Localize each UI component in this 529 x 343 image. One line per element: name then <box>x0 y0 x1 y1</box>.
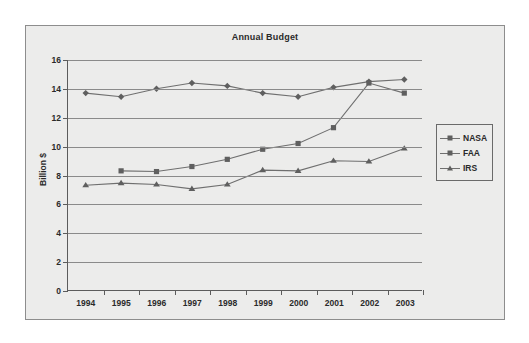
legend-item-irs[interactable]: IRS <box>440 160 488 175</box>
y-tick-label: 2 <box>56 257 61 267</box>
diamond-marker-icon <box>440 132 460 143</box>
gridline <box>68 233 422 234</box>
y-tick-label: 14 <box>52 84 61 94</box>
gridline <box>68 262 422 263</box>
x-tick-label: 1994 <box>76 298 95 308</box>
gridline <box>68 147 422 148</box>
y-tick-label: 12 <box>52 113 61 123</box>
data-point-marker <box>260 90 266 96</box>
legend-item-label: NASA <box>463 133 487 143</box>
data-point-marker <box>189 80 195 86</box>
y-tick-mark <box>63 118 68 119</box>
square-marker-icon <box>440 147 460 158</box>
y-tick-mark <box>63 89 68 90</box>
gridline <box>68 204 422 205</box>
data-point-marker <box>330 157 337 162</box>
x-tick-mark <box>104 290 105 295</box>
data-point-marker <box>153 181 160 186</box>
plot-inner: 0246810121416199419951996199719981999200… <box>68 60 422 290</box>
data-point-marker <box>259 167 266 172</box>
x-tick-mark <box>352 290 353 295</box>
y-tick-label: 0 <box>56 286 61 296</box>
y-axis-label: Billion $ <box>38 153 48 186</box>
y-tick-mark <box>63 204 68 205</box>
chart-title: Annual Budget <box>26 32 504 42</box>
y-tick-label: 8 <box>56 171 61 181</box>
legend-key-marker <box>447 165 453 170</box>
x-tick-label: 1996 <box>147 298 166 308</box>
data-point-marker <box>366 80 371 85</box>
y-tick-mark <box>63 262 68 263</box>
y-tick-mark <box>63 60 68 61</box>
data-point-marker <box>118 94 124 100</box>
chart-frame: Annual Budget Billion $ 0246810121416199… <box>25 25 505 320</box>
data-point-marker <box>225 157 230 162</box>
data-point-marker <box>331 125 336 130</box>
data-point-marker <box>189 164 194 169</box>
gridline <box>68 176 422 177</box>
plot-area: 0246810121416199419951996199719981999200… <box>67 60 422 291</box>
data-point-marker <box>295 94 301 100</box>
gridline <box>68 89 422 90</box>
data-point-marker <box>401 76 407 82</box>
data-point-marker <box>118 180 125 185</box>
y-tick-label: 10 <box>52 142 61 152</box>
legend-item-faa[interactable]: FAA <box>440 145 488 160</box>
legend-item-nasa[interactable]: NASA <box>440 130 488 145</box>
legend-key-marker <box>448 135 453 140</box>
legend-item-label: IRS <box>463 163 477 173</box>
x-tick-mark <box>281 290 282 295</box>
y-tick-label: 6 <box>56 199 61 209</box>
x-tick-mark <box>246 290 247 295</box>
x-tick-mark <box>317 290 318 295</box>
data-point-marker <box>119 168 124 173</box>
x-tick-mark <box>139 290 140 295</box>
y-tick-label: 16 <box>52 55 61 65</box>
y-tick-label: 4 <box>56 228 61 238</box>
x-tick-label: 1997 <box>183 298 202 308</box>
data-point-marker <box>295 141 300 146</box>
x-tick-label: 2002 <box>360 298 379 308</box>
data-point-marker <box>154 169 159 174</box>
y-tick-mark <box>63 233 68 234</box>
legend-key-marker <box>448 150 453 155</box>
x-tick-mark <box>210 290 211 295</box>
y-tick-mark <box>63 291 68 292</box>
x-tick-label: 2003 <box>396 298 415 308</box>
x-tick-mark <box>175 290 176 295</box>
y-tick-mark <box>63 147 68 148</box>
x-tick-mark <box>388 290 389 295</box>
legend-item-label: FAA <box>463 148 480 158</box>
series-line-faa <box>121 83 404 172</box>
gridline <box>68 118 422 119</box>
x-tick-label: 2000 <box>289 298 308 308</box>
chart-legend: NASAFAAIRS <box>436 124 493 181</box>
data-point-marker <box>83 90 89 96</box>
data-point-marker <box>402 91 407 96</box>
gridline <box>68 60 422 61</box>
y-tick-mark <box>63 176 68 177</box>
triangle-marker-icon <box>440 162 460 173</box>
x-tick-label: 2001 <box>325 298 344 308</box>
x-tick-mark <box>423 290 424 295</box>
x-tick-label: 1999 <box>254 298 273 308</box>
x-tick-label: 1998 <box>218 298 237 308</box>
x-tick-label: 1995 <box>112 298 131 308</box>
